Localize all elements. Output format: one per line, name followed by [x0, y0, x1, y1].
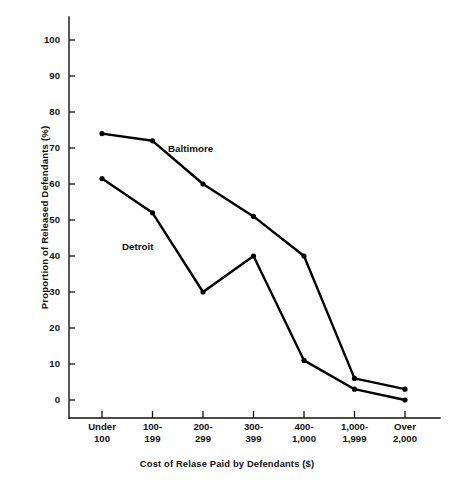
- x-axis-title: Cost of Relase Paid by Defendants ($): [0, 458, 454, 469]
- data-point-baltimore: [99, 131, 104, 136]
- x-tick-label: Over: [394, 421, 416, 432]
- x-tick-label: 300-: [244, 421, 263, 432]
- data-point-detroit: [99, 176, 104, 181]
- y-axis: 0102030405060708090100: [44, 17, 75, 418]
- x-tick-label: 1,000-: [341, 421, 368, 432]
- data-point-baltimore: [301, 253, 306, 258]
- data-point-baltimore: [251, 214, 256, 219]
- data-point-baltimore: [352, 376, 357, 381]
- series-line-baltimore: [102, 134, 405, 390]
- data-point-detroit: [402, 397, 407, 402]
- data-point-baltimore: [200, 181, 205, 186]
- data-point-detroit: [200, 289, 205, 294]
- x-tick-label: 199: [144, 433, 160, 444]
- x-tick-label: 100: [94, 433, 110, 444]
- y-tick-label: 90: [49, 70, 60, 81]
- data-point-baltimore: [402, 387, 407, 392]
- y-tick-label: 40: [49, 250, 60, 261]
- y-tick-label: 100: [44, 34, 60, 45]
- data-point-detroit: [301, 358, 306, 363]
- x-tick-label: 299: [195, 433, 211, 444]
- y-tick-label: 70: [49, 142, 60, 153]
- series-label-detroit: Detroit: [122, 241, 154, 252]
- y-tick-label: 30: [49, 286, 60, 297]
- y-tick-label: 10: [49, 358, 60, 369]
- x-tick-label: 400-: [294, 421, 313, 432]
- x-tick-label: 399: [245, 433, 261, 444]
- data-point-detroit: [150, 210, 155, 215]
- series-label-baltimore: Baltimore: [168, 143, 214, 154]
- x-tick-label: 100-: [143, 421, 162, 432]
- x-tick-label: 2,000: [393, 433, 417, 444]
- x-axis: Under100100-199200-299300-399400-1,0001,…: [69, 411, 440, 444]
- data-point-detroit: [352, 387, 357, 392]
- x-tick-label: 200-: [193, 421, 212, 432]
- y-tick-label: 50: [49, 214, 60, 225]
- data-point-detroit: [251, 253, 256, 258]
- data-series-group: [99, 131, 407, 403]
- y-tick-label: 0: [55, 394, 60, 405]
- data-point-baltimore: [150, 138, 155, 143]
- y-tick-label: 20: [49, 322, 60, 333]
- x-tick-label: 1,000: [292, 433, 316, 444]
- y-tick-label: 80: [49, 106, 60, 117]
- x-tick-label: 1,999: [342, 433, 366, 444]
- series-line-detroit: [102, 179, 405, 400]
- y-tick-label: 60: [49, 178, 60, 189]
- line-chart-plot: 0102030405060708090100 Under100100-19920…: [0, 0, 454, 492]
- chart-figure: Proportion of Released Defendants (%) 01…: [0, 0, 454, 492]
- x-tick-label: Under: [88, 421, 116, 432]
